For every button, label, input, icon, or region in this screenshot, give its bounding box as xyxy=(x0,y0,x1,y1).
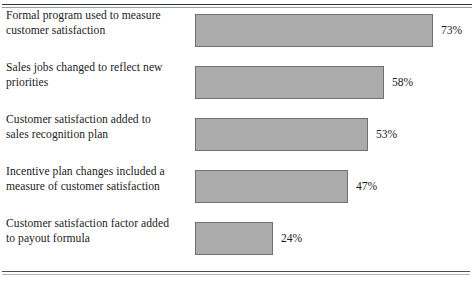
top-rule-hairline xyxy=(2,7,472,8)
bar-category-label-line: priorities xyxy=(6,76,188,91)
bar-row: Incentive plan changes included a measur… xyxy=(0,165,474,217)
clipped-header-text xyxy=(6,0,468,3)
plot-area: Formal program used to measure customer … xyxy=(0,9,474,271)
bar-category-label-line: Customer satisfaction added to xyxy=(6,113,188,128)
bar-rect xyxy=(195,170,348,203)
bar-category-label-line: sales recognition plan xyxy=(6,128,188,143)
bar-value-label: 53% xyxy=(376,128,397,142)
bar-row: Sales jobs changed to reflect new priori… xyxy=(0,61,474,113)
bar-value-label: 24% xyxy=(281,232,302,246)
bar-value-label: 47% xyxy=(356,180,377,194)
top-rule xyxy=(2,4,472,5)
bar-rect xyxy=(195,66,384,99)
bar-category-label: Customer satisfaction added to sales rec… xyxy=(6,113,188,142)
bar-category-label-line: Customer satisfaction factor added xyxy=(6,217,188,232)
bar-category-label-line: Incentive plan changes included a xyxy=(6,165,188,180)
bar-category-label-line: measure of customer satisfaction xyxy=(6,180,188,195)
bottom-rule xyxy=(2,271,470,272)
bar-category-label: Incentive plan changes included a measur… xyxy=(6,165,188,194)
bar-category-label-line: Sales jobs changed to reflect new xyxy=(6,61,188,76)
horizontal-bar-chart: Formal program used to measure customer … xyxy=(0,0,474,285)
bar-row: Customer satisfaction factor added to pa… xyxy=(0,217,474,269)
bar-rect xyxy=(195,118,368,151)
bottom-rule-hairline xyxy=(2,274,470,275)
bar-row: Customer satisfaction added to sales rec… xyxy=(0,113,474,165)
bar-rect xyxy=(195,14,433,47)
bar-category-label: Customer satisfaction factor added to pa… xyxy=(6,217,188,246)
bar-value-label: 73% xyxy=(441,24,462,38)
bar-category-label-line: customer satisfaction xyxy=(6,24,188,39)
bar-category-label: Formal program used to measure customer … xyxy=(6,9,188,38)
bar-category-label-line: Formal program used to measure xyxy=(6,9,188,24)
bar-rect xyxy=(195,222,273,255)
bar-category-label-line: to payout formula xyxy=(6,232,188,247)
bar-category-label: Sales jobs changed to reflect new priori… xyxy=(6,61,188,90)
bar-value-label: 58% xyxy=(392,76,413,90)
bar-row: Formal program used to measure customer … xyxy=(0,9,474,61)
